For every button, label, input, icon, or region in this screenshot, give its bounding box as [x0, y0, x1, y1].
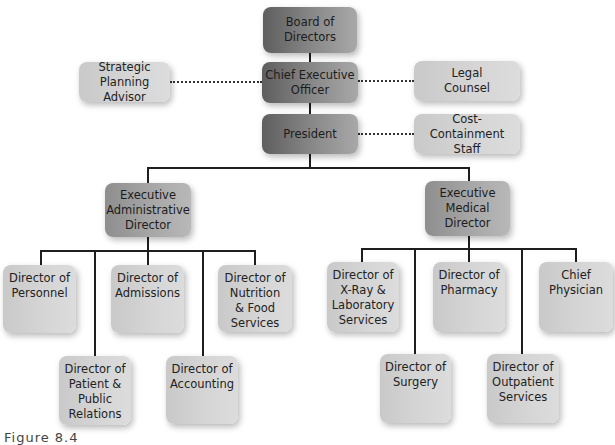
- connector-to-exec-medical: [468, 167, 470, 181]
- node-label: Director of: [225, 271, 286, 286]
- node-label: Services: [231, 316, 280, 331]
- node-label: Chief: [561, 268, 591, 283]
- node-label: X-Ray &: [340, 283, 386, 298]
- connector-exec-admin-down: [147, 237, 149, 251]
- node-label: Personnel: [11, 286, 67, 301]
- node-label: Cost-Containment: [417, 112, 517, 142]
- node-label: Director of: [65, 362, 126, 377]
- node-label: Advisor: [103, 90, 146, 105]
- staff-link-cost: [358, 133, 414, 135]
- connector-to-surgery: [414, 248, 416, 354]
- node-label: Chief Executive: [265, 68, 354, 83]
- staff-link-legal: [358, 80, 414, 82]
- node-label: Counsel: [444, 81, 490, 96]
- node-label: Officer: [291, 83, 329, 98]
- node-legal-counsel[interactable]: Legal Counsel: [414, 61, 520, 101]
- node-label: Strategic Planning: [82, 60, 167, 90]
- node-director-of-nutrition-food-services[interactable]: Director of Nutrition & Food Services: [218, 265, 292, 332]
- node-label: Nutrition: [230, 286, 280, 301]
- node-label: Director of: [172, 362, 233, 377]
- node-label: Admissions: [115, 286, 180, 301]
- connector-ceo-president: [309, 103, 311, 114]
- node-chief-physician[interactable]: Chief Physician: [539, 262, 613, 332]
- node-label: Accounting: [170, 377, 234, 392]
- connector-exec-bus: [147, 167, 470, 169]
- node-label: Pharmacy: [440, 283, 497, 298]
- node-label: Director: [125, 218, 171, 233]
- node-board-of-directors[interactable]: Board of Directors: [263, 7, 357, 53]
- connector-to-pharmacy: [468, 248, 470, 262]
- node-label: Board of: [286, 15, 335, 30]
- node-director-of-surgery[interactable]: Director of Surgery: [380, 354, 451, 423]
- node-label: Legal: [452, 66, 483, 81]
- node-label: President: [283, 127, 337, 142]
- connector-to-outpatient: [521, 248, 523, 354]
- node-label: Outpatient: [492, 375, 554, 390]
- node-executive-administrative-director[interactable]: Executive Administrative Director: [105, 183, 191, 237]
- node-label: Director of: [9, 271, 70, 286]
- node-label: Medical: [445, 201, 489, 216]
- node-director-of-accounting[interactable]: Director of Accounting: [166, 356, 238, 424]
- node-label: Director of: [385, 360, 446, 375]
- node-label: Patient &: [69, 377, 122, 392]
- node-label: Relations: [69, 407, 122, 422]
- node-label: Director of: [439, 268, 500, 283]
- node-label: Administrative: [106, 203, 190, 218]
- node-label: Executive: [440, 186, 496, 201]
- node-label: Director of: [117, 271, 178, 286]
- figure-caption: Figure 8.4: [4, 430, 79, 445]
- node-label: Laboratory: [332, 298, 395, 313]
- node-label: & Food: [235, 301, 275, 316]
- node-label: Public: [78, 392, 112, 407]
- node-director-of-pharmacy[interactable]: Director of Pharmacy: [433, 262, 505, 332]
- node-label: Director: [444, 216, 490, 231]
- connector-to-accounting: [202, 250, 204, 356]
- node-label: Executive: [120, 188, 176, 203]
- connector-to-physician: [575, 248, 577, 262]
- connector-to-xray: [361, 248, 363, 262]
- node-executive-medical-director[interactable]: Executive Medical Director: [425, 181, 510, 236]
- node-president[interactable]: President: [262, 114, 358, 154]
- node-director-of-outpatient-services[interactable]: Director of Outpatient Services: [487, 354, 559, 423]
- connector-to-admissions: [147, 250, 149, 265]
- node-director-of-patient-public-relations[interactable]: Director of Patient & Public Relations: [59, 356, 131, 425]
- node-label: Services: [339, 313, 388, 328]
- node-label: Surgery: [393, 375, 438, 390]
- connector-to-personnel: [40, 250, 42, 265]
- connector-to-patient: [94, 250, 96, 356]
- node-chief-executive-officer[interactable]: Chief Executive Officer: [262, 62, 358, 103]
- node-label: Director of: [493, 360, 554, 375]
- node-director-of-personnel[interactable]: Director of Personnel: [3, 265, 76, 333]
- node-cost-containment-staff[interactable]: Cost-Containment Staff: [414, 114, 520, 154]
- connector-president-down: [309, 154, 311, 168]
- node-label: Director of: [333, 268, 394, 283]
- node-director-of-xray-laboratory-services[interactable]: Director of X-Ray & Laboratory Services: [327, 262, 399, 332]
- connector-to-nutrition: [254, 250, 256, 265]
- node-label: Physician: [549, 283, 603, 298]
- node-director-of-admissions[interactable]: Director of Admissions: [111, 265, 184, 333]
- node-label: Services: [499, 390, 548, 405]
- node-strategic-planning-advisor[interactable]: Strategic Planning Advisor: [79, 62, 170, 102]
- connector-board-ceo: [309, 53, 311, 62]
- connector-to-exec-admin: [147, 167, 149, 183]
- node-label: Staff: [454, 142, 481, 157]
- node-label: Directors: [284, 30, 336, 45]
- staff-link-strategic: [170, 81, 262, 83]
